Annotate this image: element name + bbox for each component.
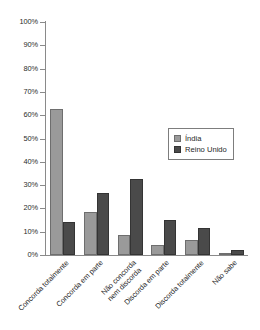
- x-axis-category-label-line: Não sabe: [211, 258, 239, 286]
- bar-chart: 100%90%80%70%60%50%40%30%20%10%0% Índia …: [0, 0, 260, 330]
- x-axis-category-label: Não sabe: [211, 259, 239, 287]
- x-axis-category-labels: Concorda totalmenteConcorda em parteNão …: [0, 0, 260, 330]
